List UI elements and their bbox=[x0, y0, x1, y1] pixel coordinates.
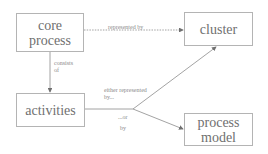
node-core-process-label: core process bbox=[17, 18, 83, 48]
node-activities-label: activities bbox=[25, 103, 76, 118]
node-cluster-label: cluster bbox=[200, 22, 237, 37]
node-process-model-label-1: process bbox=[198, 115, 240, 130]
node-activities: activities bbox=[16, 93, 85, 127]
edge-label-represented-by: represented by bbox=[108, 24, 143, 31]
edge-label-either-represented: either represented bbox=[104, 87, 147, 94]
node-core-process: core process bbox=[16, 13, 84, 52]
edge-label-or: ...or bbox=[118, 114, 128, 121]
edge-activities-to-cluster bbox=[133, 47, 216, 109]
edge-label-of: of bbox=[54, 67, 59, 74]
node-process-model: process model bbox=[184, 113, 253, 146]
node-cluster: cluster bbox=[184, 12, 253, 46]
edge-label-by: by bbox=[120, 125, 126, 132]
edge-label-consists: consists bbox=[54, 60, 73, 67]
node-process-model-label-2: model bbox=[201, 130, 236, 145]
edge-activities-to-model bbox=[133, 109, 183, 129]
edge-label-by-ellipsis: by... bbox=[104, 94, 114, 101]
